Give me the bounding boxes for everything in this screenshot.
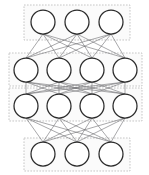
neural-network-diagram: [0, 0, 149, 175]
node-layer-3-2: [47, 94, 71, 118]
node-layer-2-1: [14, 58, 38, 82]
network-canvas: [0, 0, 149, 175]
node-layer-3-3: [80, 94, 104, 118]
node-layer-4-1: [31, 142, 55, 166]
node-layer-2-3: [80, 58, 104, 82]
node-layer-4-2: [65, 142, 89, 166]
node-layer-4-3: [99, 142, 123, 166]
node-layer-1-2: [65, 10, 89, 34]
node-layer-3-1: [14, 94, 38, 118]
node-layer-1-1: [31, 10, 55, 34]
node-layer-2-2: [47, 58, 71, 82]
node-layer-3-4: [113, 94, 137, 118]
node-layer-2-4: [113, 58, 137, 82]
node-layer-1-3: [99, 10, 123, 34]
